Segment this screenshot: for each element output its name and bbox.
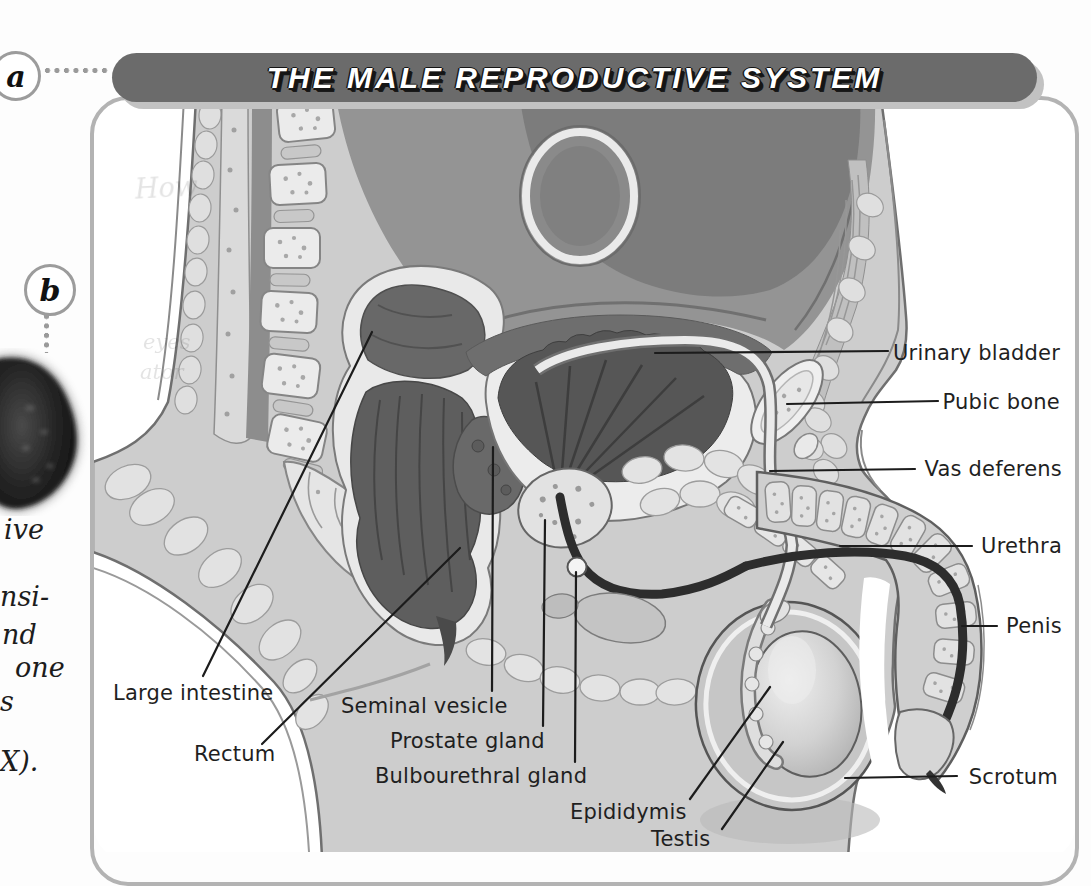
marker-b-dotted-line <box>43 313 50 353</box>
label-prostate-gland: Prostate gland <box>390 729 545 753</box>
label-penis: Penis <box>1006 614 1062 638</box>
label-pubic-bone: Pubic bone <box>943 390 1060 414</box>
ghost-text-2: eyes <box>143 330 191 354</box>
marker-a-letter: a <box>6 59 25 94</box>
label-rectum: Rectum <box>194 742 275 766</box>
label-epididymis: Epididymis <box>570 800 687 824</box>
title-banner: THE MALE REPRODUCTIVE SYSTEM <box>112 53 1037 102</box>
marker-a-dotted-line <box>44 67 108 74</box>
marker-b: b <box>24 264 76 316</box>
ghost-text-3: ator <box>140 360 184 384</box>
margin-fragment-4: one <box>15 652 65 683</box>
label-seminal-vesicle: Seminal vesicle <box>341 694 508 718</box>
label-large-intestine: Large intestine <box>113 681 273 705</box>
label-urethra: Urethra <box>981 534 1062 558</box>
margin-fragment-5: s <box>0 686 14 717</box>
margin-fragment-6: X). <box>0 746 38 777</box>
bowel-loop <box>520 126 640 266</box>
margin-fragment-3: nd <box>2 619 37 650</box>
margin-fragment-2: nsi- <box>0 581 49 612</box>
photo-fragment <box>0 348 100 516</box>
label-scrotum: Scrotum <box>969 765 1058 789</box>
label-urinary-bladder: Urinary bladder <box>893 341 1060 365</box>
marker-b-letter: b <box>40 273 61 308</box>
margin-fragment-1: ive <box>4 514 44 545</box>
label-bulbourethral-gland: Bulbourethral gland <box>375 764 587 788</box>
ghost-text-1: How <box>134 170 198 204</box>
figure-title: THE MALE REPRODUCTIVE SYSTEM <box>267 61 883 95</box>
label-testis: Testis <box>651 827 710 851</box>
label-vas-deferens: Vas deferens <box>924 457 1062 481</box>
